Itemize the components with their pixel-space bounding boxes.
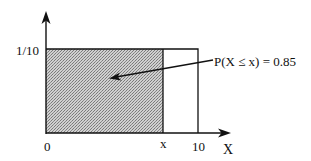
shaded-probability-region — [46, 49, 163, 133]
x-tick-label-x: x — [160, 137, 167, 150]
probability-annotation: P(X ≤ x) = 0.85 — [214, 55, 296, 68]
x-tick-label-0: 0 — [44, 140, 51, 153]
x-axis-label: X — [223, 143, 233, 157]
y-tick-label-one-tenth: 1/10 — [16, 44, 39, 57]
uniform-distribution-diagram — [0, 0, 311, 161]
x-tick-label-10: 10 — [192, 140, 205, 153]
